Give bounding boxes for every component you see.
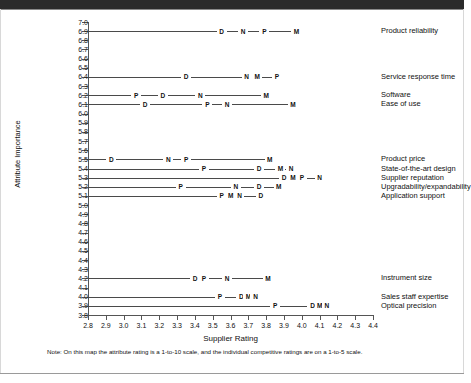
y-axis-tick-label-wrap: 5.1 <box>54 192 88 199</box>
competitor-marker-p: P <box>270 302 280 309</box>
x-axis-title: Supplier Rating <box>88 334 373 343</box>
y-axis-tick-label: 3.8 <box>66 312 88 319</box>
y-axis-tick-label-wrap: 5.9 <box>54 119 88 126</box>
competitor-marker-p: P <box>215 293 225 300</box>
y-axis-tick-label: 5.9 <box>66 119 88 126</box>
attribute-row-label: Upgradability/expandability <box>381 183 471 191</box>
competitor-marker-d: D <box>256 192 266 199</box>
y-axis-tick-label-wrap: 6.4 <box>54 73 88 80</box>
x-axis-tick <box>337 315 338 320</box>
y-axis-tick-label: 4.5 <box>66 247 88 254</box>
competitor-marker-d: D <box>106 156 116 163</box>
competitor-marker-d: D <box>181 73 191 80</box>
y-axis-tick-label: 5.0 <box>66 202 88 209</box>
attribute-row-line <box>88 297 255 298</box>
competitor-marker-n: N <box>250 293 260 300</box>
y-axis-tick-label-wrap: 6.2 <box>54 92 88 99</box>
y-axis-tick-label: 4.7 <box>66 229 88 236</box>
competitor-marker-m: M <box>263 275 273 282</box>
y-axis-tick-label: 5.3 <box>66 174 88 181</box>
x-axis-tick <box>373 315 374 320</box>
x-axis-tick <box>231 315 232 320</box>
y-axis-tick-label: 6.8 <box>66 37 88 44</box>
x-axis-tick <box>88 315 89 320</box>
y-axis-tick-label: 5.1 <box>66 192 88 199</box>
y-axis-tick-label: 6.9 <box>66 28 88 35</box>
x-axis-tick <box>320 315 321 320</box>
competitor-marker-n: N <box>195 92 205 99</box>
y-axis-tick-label-wrap: 3.8 <box>54 312 88 319</box>
y-axis-tick-label-wrap: 4.1 <box>54 284 88 291</box>
y-axis-tick-label: 6.4 <box>66 73 88 80</box>
x-axis-tick-label: 4.4 <box>361 322 385 330</box>
y-axis-tick-label: 4.8 <box>66 220 88 227</box>
y-axis-tick-label: 5.6 <box>66 147 88 154</box>
x-axis-tick <box>106 315 107 320</box>
y-axis-tick-label: 4.3 <box>66 266 88 273</box>
competitor-marker-p: P <box>297 174 307 181</box>
x-axis-tick <box>195 315 196 320</box>
x-axis-tick <box>248 315 249 320</box>
y-axis-tick-label: 3.9 <box>66 302 88 309</box>
competitor-marker-d: D <box>217 28 227 35</box>
y-axis-tick-label-wrap: 4.3 <box>54 266 88 273</box>
y-axis-tick-label-wrap: 6.6 <box>54 55 88 62</box>
y-axis-tick-label: 5.2 <box>66 183 88 190</box>
x-axis-tick <box>124 315 125 320</box>
attribute-row-label: Software <box>381 91 411 99</box>
y-axis-tick-label-wrap: 6.0 <box>54 110 88 117</box>
y-axis-tick-label-wrap: 5.4 <box>54 165 88 172</box>
competitor-marker-n: N <box>238 28 248 35</box>
y-axis-tick-label-wrap: 4.2 <box>54 275 88 282</box>
y-axis-tick-label-wrap: 4.0 <box>54 293 88 300</box>
y-axis-tick-label-wrap: 6.9 <box>54 28 88 35</box>
attribute-row-line <box>88 306 327 307</box>
competitor-marker-p: P <box>202 101 212 108</box>
y-axis-tick-label-wrap: 6.1 <box>54 101 88 108</box>
x-axis-tick <box>302 315 303 320</box>
chart-footnote: Note: On this map the attribute rating i… <box>47 348 457 356</box>
attribute-row-line <box>88 104 293 105</box>
x-axis-tick <box>355 315 356 320</box>
y-axis-tick-label-wrap: 6.3 <box>54 83 88 90</box>
y-axis-tick-label-wrap: 4.7 <box>54 229 88 236</box>
x-axis-tick <box>266 315 267 320</box>
attribute-row-label: Product reliability <box>381 27 438 35</box>
y-axis-tick-label: 4.6 <box>66 238 88 245</box>
competitor-marker-p: P <box>176 183 186 190</box>
y-axis-tick-label-wrap: 5.2 <box>54 183 88 190</box>
competitor-marker-d: D <box>158 92 168 99</box>
competitor-marker-m: M <box>274 183 284 190</box>
y-axis-tick-label: 5.7 <box>66 138 88 145</box>
competitor-marker-p: P <box>272 73 282 80</box>
attribute-row-label: Ease of use <box>381 100 421 108</box>
competitor-marker-n: N <box>242 73 252 80</box>
y-axis-tick-label: 4.2 <box>66 275 88 282</box>
attribute-row-label: Instrument size <box>381 274 432 282</box>
attribute-row-label: State-of-the-art design <box>381 165 456 173</box>
y-axis-tick-label-wrap: 4.4 <box>54 257 88 264</box>
y-axis-tick-label-wrap: 4.5 <box>54 247 88 254</box>
x-axis-tick <box>159 315 160 320</box>
y-axis-tick-label-wrap: 4.9 <box>54 211 88 218</box>
y-axis-tick-label-wrap: 6.5 <box>54 64 88 71</box>
footer-divider-rule <box>0 373 464 374</box>
x-axis-tick <box>177 315 178 320</box>
y-axis-tick-label-wrap: 6.7 <box>54 46 88 53</box>
y-axis-title: Attribute Importance <box>14 84 22 224</box>
competitor-marker-d: D <box>140 101 150 108</box>
attribute-row-label: Application support <box>381 192 445 200</box>
competitor-marker-d: D <box>254 165 264 172</box>
x-axis-tick <box>141 315 142 320</box>
competitor-marker-n: N <box>231 183 241 190</box>
y-axis-tick-label-wrap: 5.3 <box>54 174 88 181</box>
competitor-marker-n: N <box>322 302 332 309</box>
attribute-row-label: Supplier reputation <box>381 174 444 182</box>
y-axis-tick-label: 5.4 <box>66 165 88 172</box>
y-axis-tick-label-wrap: 5.6 <box>54 147 88 154</box>
competitor-marker-p: P <box>181 156 191 163</box>
competitor-marker-p: P <box>199 275 209 282</box>
competitor-marker-n: N <box>286 165 296 172</box>
